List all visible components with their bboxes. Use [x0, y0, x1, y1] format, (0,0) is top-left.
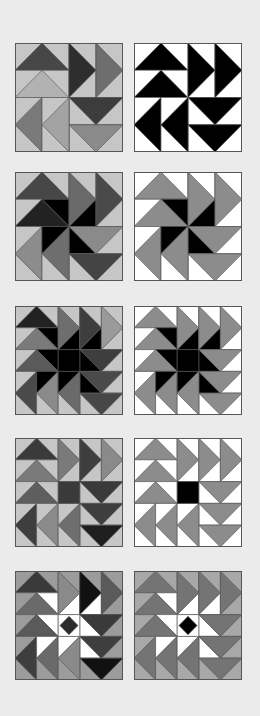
- quilt-block-r4-right: [134, 438, 242, 547]
- quilt-block-r5-left: [15, 571, 123, 680]
- quilt-block-r3-right: [134, 306, 242, 415]
- center-square: [58, 350, 80, 372]
- quilt-block-r2-right: [134, 172, 242, 281]
- quilt-block-r5-right: [134, 571, 242, 680]
- center-square: [177, 482, 199, 504]
- quilt-block-r1-left: [15, 43, 123, 152]
- quilt-block-r4-left: [15, 438, 123, 547]
- center-square: [177, 350, 199, 372]
- quilt-block-r3-left: [15, 306, 123, 415]
- quilt-block-r1-right: [134, 43, 242, 152]
- center-square: [58, 482, 80, 504]
- quilt-block-r2-left: [15, 172, 123, 281]
